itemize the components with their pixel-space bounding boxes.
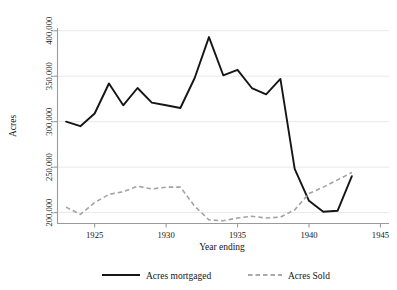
y-tick-label-1: 250,000 xyxy=(45,153,55,181)
x-axis-title: Year ending xyxy=(199,242,245,252)
y-tick-label-2: 300,000 xyxy=(45,108,55,136)
x-tick-label-3: 1940 xyxy=(300,230,317,240)
x-tick-label-0: 1925 xyxy=(86,230,103,240)
legend-label-acres-sold: Acres Sold xyxy=(288,271,330,281)
y-tick-label-3: 350,000 xyxy=(45,62,55,90)
x-tick-label-1: 1930 xyxy=(158,230,175,240)
chart-figure: 200,000250,000300,000350,000400,000 1925… xyxy=(0,0,397,290)
y-axis-title: Acres xyxy=(8,115,18,137)
x-tick-label-4: 1945 xyxy=(372,230,389,240)
x-tick-label-2: 1935 xyxy=(229,230,246,240)
y-tick-label-4: 400,000 xyxy=(45,17,55,45)
y-tick-label-0: 200,000 xyxy=(45,199,55,227)
legend-label-acres-mortgaged: Acres mortgaged xyxy=(146,271,211,281)
